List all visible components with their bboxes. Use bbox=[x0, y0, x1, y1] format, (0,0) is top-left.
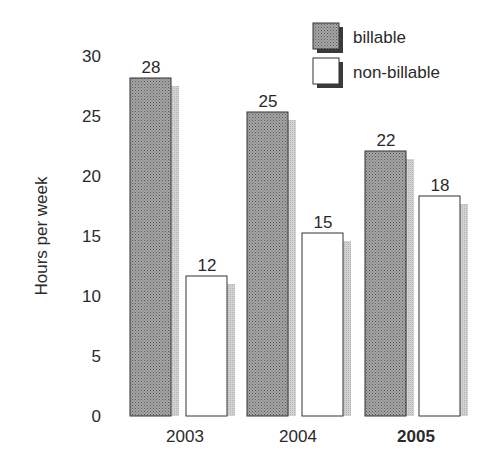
bar-chart: Hours per week 0 5 10 15 20 25 30 billab… bbox=[0, 0, 497, 474]
bar-non-billable bbox=[419, 196, 460, 416]
bar-group-2003: 28 12 bbox=[130, 58, 235, 416]
bar-non-billable bbox=[186, 276, 227, 416]
bar-billable bbox=[365, 151, 406, 416]
y-tick: 25 bbox=[82, 107, 101, 126]
y-axis-ticks: 0 5 10 15 20 25 30 bbox=[82, 47, 101, 426]
bar-value-label: 18 bbox=[431, 176, 450, 195]
y-tick: 0 bbox=[92, 407, 101, 426]
x-axis-labels: 2003 2004 2005 bbox=[166, 427, 435, 446]
y-axis-label: Hours per week bbox=[32, 176, 51, 296]
y-tick: 10 bbox=[82, 287, 101, 306]
bar-value-label: 28 bbox=[142, 58, 161, 77]
x-tick-2003: 2003 bbox=[166, 427, 204, 446]
y-tick: 20 bbox=[82, 167, 101, 186]
bar-group-2004: 25 15 bbox=[247, 92, 351, 416]
bar-non-billable bbox=[302, 233, 343, 416]
y-tick: 5 bbox=[92, 347, 101, 366]
legend-label-non-billable: non-billable bbox=[353, 63, 440, 82]
y-tick: 30 bbox=[82, 47, 101, 66]
bar-group-2005: 22 18 bbox=[365, 131, 468, 416]
bar-billable bbox=[247, 112, 288, 416]
y-tick: 15 bbox=[82, 227, 101, 246]
bar-value-label: 22 bbox=[377, 131, 396, 150]
legend: billable non-billable bbox=[313, 23, 440, 88]
legend-swatch-non-billable bbox=[313, 58, 339, 84]
x-tick-2005: 2005 bbox=[397, 427, 435, 446]
bar-value-label: 15 bbox=[314, 213, 333, 232]
bar-value-label: 12 bbox=[198, 256, 217, 275]
legend-label-billable: billable bbox=[353, 28, 406, 47]
bar-value-label: 25 bbox=[259, 92, 278, 111]
bar-billable bbox=[130, 78, 171, 416]
legend-swatch-billable bbox=[313, 23, 339, 49]
x-tick-2004: 2004 bbox=[279, 427, 317, 446]
